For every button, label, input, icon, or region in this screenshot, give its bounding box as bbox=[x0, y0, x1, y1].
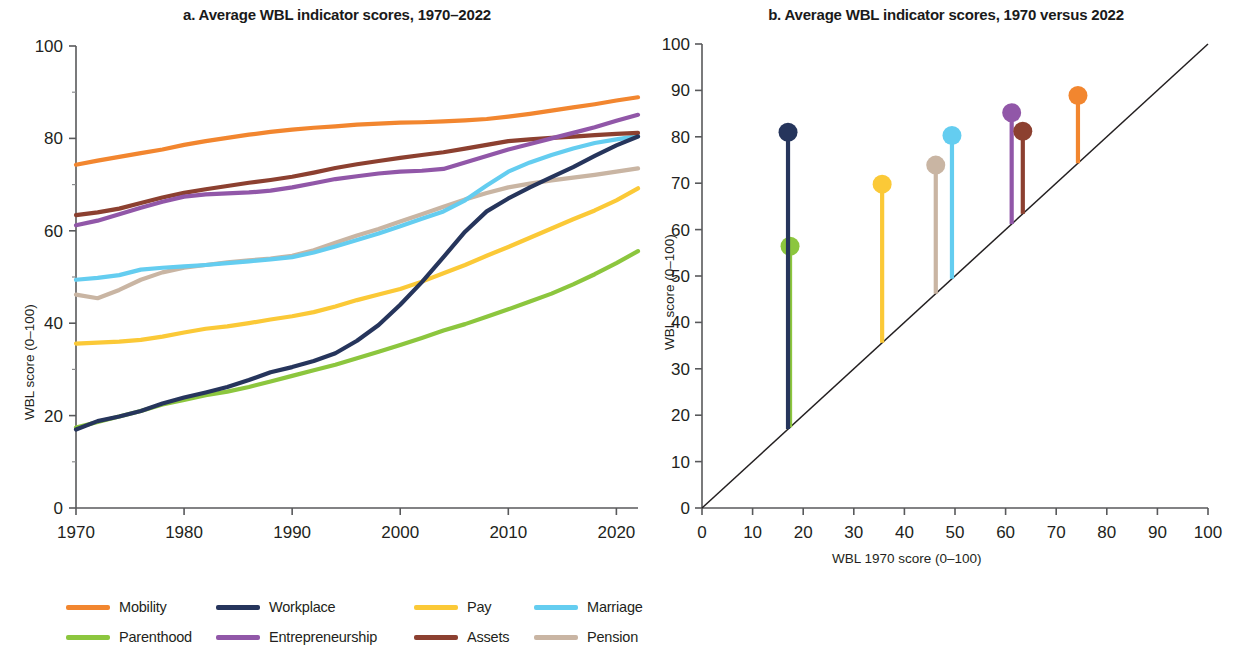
panel-b-x-tick-label: 60 bbox=[996, 523, 1015, 540]
panel-a-y-tick-label: 20 bbox=[44, 407, 63, 426]
panel-a-y-tick-label: 0 bbox=[54, 499, 63, 518]
legend-label-pension: Pension bbox=[587, 629, 638, 645]
panel-b-y-tick-label: 10 bbox=[671, 453, 690, 472]
legend-item-pay[interactable]: Pay bbox=[414, 592, 534, 622]
legend-label-parenthood: Parenthood bbox=[119, 629, 192, 645]
panel-a-line-marriage bbox=[76, 136, 638, 280]
legend-swatch-entrepreneurship bbox=[216, 635, 260, 640]
panel-b-marker-pay[interactable] bbox=[873, 175, 892, 194]
panel-b-x-tick-label: 50 bbox=[946, 523, 965, 540]
panel-b-x-axis-label: WBL 1970 score (0–100) bbox=[832, 551, 982, 566]
panel-b-y-tick-label: 40 bbox=[671, 313, 690, 332]
panel-b-x-tick-label: 0 bbox=[697, 523, 706, 540]
legend-label-mobility: Mobility bbox=[119, 599, 167, 615]
panel-a-y-tick-label: 80 bbox=[44, 129, 63, 148]
panel-a-y-tick-label: 40 bbox=[44, 314, 63, 333]
panel-b-x-tick-label: 70 bbox=[1047, 523, 1066, 540]
legend-swatch-mobility bbox=[66, 605, 110, 610]
panel-a-svg: 020406080100197019801990200020102020 bbox=[0, 0, 648, 570]
panel-b-y-tick-label: 0 bbox=[681, 499, 690, 518]
panel-a-y-tick-label: 60 bbox=[44, 222, 63, 241]
panel-b-lollipop-workplace[interactable] bbox=[779, 123, 798, 429]
panel-a-x-tick-label: 1980 bbox=[165, 523, 203, 542]
panel-a-x-tick-label: 2010 bbox=[489, 523, 527, 542]
legend-swatch-workplace bbox=[216, 605, 260, 610]
legend-item-workplace[interactable]: Workplace bbox=[216, 592, 414, 622]
panel-a-line-entrepreneurship bbox=[76, 115, 638, 225]
panel-b-marker-mobility[interactable] bbox=[1068, 86, 1087, 105]
panel-b-x-tick-label: 80 bbox=[1097, 523, 1116, 540]
panel-b-x-tick-label: 20 bbox=[794, 523, 813, 540]
panel-b-marker-assets[interactable] bbox=[1013, 122, 1032, 141]
panel-b-y-tick-label: 60 bbox=[671, 221, 690, 240]
legend-label-workplace: Workplace bbox=[269, 599, 335, 615]
panel-b-lollipop-marriage[interactable] bbox=[942, 126, 961, 279]
legend-swatch-pension bbox=[534, 635, 578, 640]
panel-b-marker-marriage[interactable] bbox=[942, 126, 961, 145]
panel-b-marker-pension[interactable] bbox=[926, 156, 945, 175]
panel-a-y-tick-label: 100 bbox=[35, 37, 63, 56]
panel-b: b. Average WBL indicator scores, 1970 ve… bbox=[648, 0, 1234, 649]
panel-b-svg: 0102030405060708090100010203040506070809… bbox=[648, 0, 1234, 540]
panel-b-x-tick-label: 30 bbox=[844, 523, 863, 540]
panel-b-diagonal-reference-line bbox=[702, 44, 1208, 508]
legend-item-entrepreneurship[interactable]: Entrepreneurship bbox=[216, 622, 414, 649]
panel-b-lollipop-pension[interactable] bbox=[926, 156, 945, 294]
figure-container: a. Average WBL indicator scores, 1970–20… bbox=[0, 0, 1234, 649]
panel-b-y-tick-label: 50 bbox=[671, 267, 690, 286]
panel-b-lollipop-entrepreneurship[interactable] bbox=[1002, 103, 1021, 224]
panel-b-marker-workplace[interactable] bbox=[779, 123, 798, 142]
legend-swatch-pay bbox=[414, 605, 458, 610]
legend-label-pay: Pay bbox=[467, 599, 491, 615]
panel-a-legend: Mobility Workplace Pay Marriage Parentho… bbox=[66, 592, 674, 649]
panel-b-x-tick-label: 40 bbox=[895, 523, 914, 540]
panel-a-x-tick-label: 2020 bbox=[597, 523, 635, 542]
legend-item-assets[interactable]: Assets bbox=[414, 622, 534, 649]
panel-b-y-tick-label: 20 bbox=[671, 406, 690, 425]
panel-a-x-tick-label: 2000 bbox=[381, 523, 419, 542]
panel-b-lollipop-assets[interactable] bbox=[1013, 122, 1032, 214]
panel-a-line-pension bbox=[76, 168, 638, 298]
panel-b-y-tick-label: 80 bbox=[671, 128, 690, 147]
panel-a-x-tick-label: 1970 bbox=[57, 523, 95, 542]
legend-swatch-assets bbox=[414, 635, 458, 640]
panel-a-x-tick-label: 1990 bbox=[273, 523, 311, 542]
legend-label-marriage: Marriage bbox=[587, 599, 643, 615]
panel-b-x-tick-label: 10 bbox=[743, 523, 762, 540]
panel-b-y-tick-label: 70 bbox=[671, 174, 690, 193]
panel-b-x-tick-label: 90 bbox=[1148, 523, 1167, 540]
legend-swatch-parenthood bbox=[66, 635, 110, 640]
legend-label-assets: Assets bbox=[467, 629, 509, 645]
panel-a: a. Average WBL indicator scores, 1970–20… bbox=[0, 0, 648, 649]
legend-label-entrepreneurship: Entrepreneurship bbox=[269, 629, 377, 645]
panel-b-plot: 0102030405060708090100010203040506070809… bbox=[648, 0, 1234, 540]
legend-item-parenthood[interactable]: Parenthood bbox=[66, 622, 216, 649]
panel-b-y-tick-label: 100 bbox=[662, 35, 690, 54]
panel-b-lollipop-mobility[interactable] bbox=[1068, 86, 1087, 163]
panel-b-x-tick-label: 100 bbox=[1194, 523, 1222, 540]
legend-swatch-marriage bbox=[534, 605, 578, 610]
panel-b-marker-entrepreneurship[interactable] bbox=[1002, 103, 1021, 122]
legend-item-mobility[interactable]: Mobility bbox=[66, 592, 216, 622]
panel-b-lollipop-pay[interactable] bbox=[873, 175, 892, 343]
panel-a-plot: 020406080100197019801990200020102020 bbox=[0, 0, 648, 570]
panel-b-y-tick-label: 30 bbox=[671, 360, 690, 379]
panel-b-y-tick-label: 90 bbox=[671, 81, 690, 100]
